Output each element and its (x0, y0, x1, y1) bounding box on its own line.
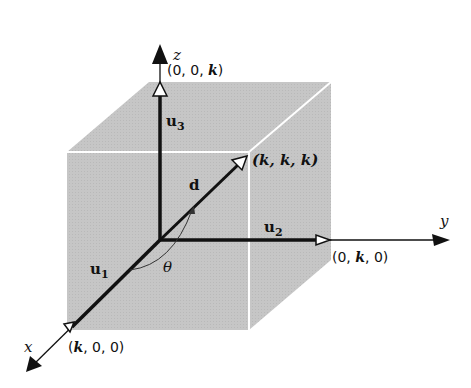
y-point-label: (0, k, 0) (332, 249, 388, 265)
diag-point-label: (k, k, k) (252, 151, 318, 169)
d-label: d (189, 176, 200, 194)
x-point-label: (k, 0, 0) (68, 339, 124, 355)
theta-label: θ (163, 258, 172, 276)
z-point-label: (0, 0, k) (167, 62, 223, 78)
u1-open-arrow-icon (64, 322, 74, 332)
x-axis-label: x (24, 338, 33, 356)
y-axis-arrow-icon (432, 234, 450, 246)
y-axis-label: y (439, 212, 449, 230)
z-axis-arrow-icon (152, 44, 168, 64)
cube-vector-diagram: z y x (0, 0, k) (0, k, 0) (k, 0, 0) (k, … (0, 0, 471, 388)
